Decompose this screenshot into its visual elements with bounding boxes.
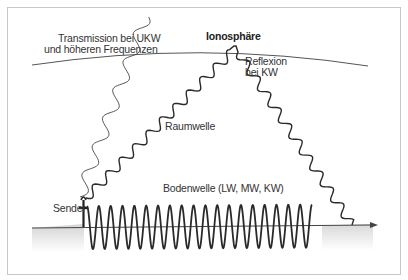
earth-surface-arrow-icon [370,222,378,228]
sender-label: Sender [53,203,86,214]
reflection-label-line2: bei KW [245,67,278,78]
sky-wave [86,46,354,225]
ground-wave-label: Bodenwelle (LW, MW, KW) [163,183,284,194]
ionosphere-label: Ionosphäre [206,31,261,42]
ground-shade-right [322,224,373,250]
sky-wave-label: Raumwelle [165,121,215,132]
transmission-label-line2-text: und höheren Frequenzen [44,44,158,55]
